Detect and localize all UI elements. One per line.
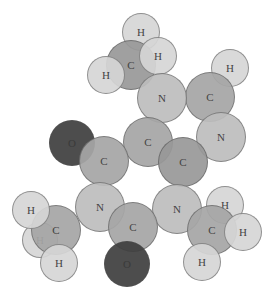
atom-label: H xyxy=(154,51,162,62)
atom-label: H xyxy=(226,63,234,74)
atom-label: H xyxy=(27,205,35,216)
atom-label: C xyxy=(206,92,213,103)
atom-label: C xyxy=(52,225,59,236)
atom-label: H xyxy=(137,27,145,38)
atom-label: H xyxy=(102,70,110,81)
atom-label: N xyxy=(96,202,104,213)
atom-h-right: H xyxy=(224,213,262,251)
atom-label: C xyxy=(144,137,151,148)
atom-label: C xyxy=(208,225,215,236)
atom-c-center-right: C xyxy=(158,137,208,187)
atom-label: H xyxy=(239,227,247,238)
atom-label: O xyxy=(68,138,76,149)
atom-c-left: C xyxy=(79,136,129,186)
atom-n-top: N xyxy=(137,73,187,123)
atom-label: C xyxy=(179,157,186,168)
atom-label: C xyxy=(129,222,136,233)
atom-o-bottom: O xyxy=(104,241,150,287)
atom-label: H xyxy=(55,258,63,269)
atom-label: O xyxy=(123,259,131,270)
atom-label: C xyxy=(100,156,107,167)
atom-label: N xyxy=(173,204,181,215)
atom-h-top-left: H xyxy=(87,56,125,94)
atom-h-right-bottom: H xyxy=(183,243,221,281)
atom-label: N xyxy=(158,93,166,104)
atom-h-left-top: H xyxy=(12,191,50,229)
atom-label: H xyxy=(198,257,206,268)
atom-h-top-right: H xyxy=(139,37,177,75)
molecule-model: HHCHHHCNNCCOCHNNCHHCOCHH xyxy=(0,0,272,293)
atom-label: C xyxy=(127,60,134,71)
atom-h-left-bottom: H xyxy=(40,244,78,282)
atom-label: N xyxy=(217,132,225,143)
